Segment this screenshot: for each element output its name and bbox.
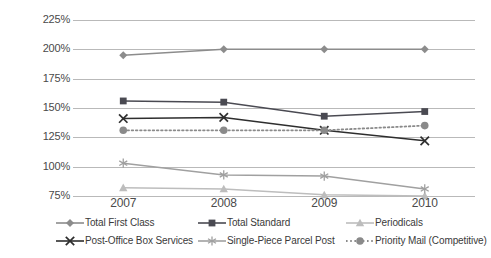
line-chart: 225%200%175%150%125%100%75% 200720082009… (0, 0, 491, 258)
legend-label: Post-Office Box Services (85, 235, 193, 246)
legend-label: Total First Class (85, 217, 154, 228)
x-tick-label: 2007 (93, 196, 153, 210)
x-icon (55, 234, 85, 248)
triangle-icon (345, 216, 375, 230)
legend-label: Single-Piece Parcel Post (227, 235, 335, 246)
legend-label: Periodicals (375, 217, 423, 228)
legend-item-x[interactable]: Post-Office Box Services (55, 231, 197, 250)
data-point-circle (356, 237, 364, 245)
diamond-icon (55, 216, 85, 230)
x-tick-label: 2009 (294, 196, 354, 210)
legend-item-asterisk[interactable]: Single-Piece Parcel Post (197, 231, 345, 250)
legend-item-circle[interactable]: Priority Mail (Competitive) (345, 231, 491, 250)
x-tick-label: 2010 (395, 196, 455, 210)
asterisk-icon (197, 234, 227, 248)
legend-row: Total First ClassTotal StandardPeriodica… (55, 213, 491, 232)
legend-label: Total Standard (227, 217, 290, 228)
x-axis-labels: 2007200820092010 (73, 0, 475, 215)
data-point-square (209, 219, 216, 226)
legend-item-diamond[interactable]: Total First Class (55, 213, 197, 232)
x-tick-label: 2008 (194, 196, 254, 210)
legend-label: Priority Mail (Competitive) (375, 235, 487, 246)
data-point-diamond (66, 219, 74, 227)
legend-row: Post-Office Box ServicesSingle-Piece Par… (55, 231, 491, 250)
circle-icon (345, 234, 375, 248)
chart-legend: Total First ClassTotal StandardPeriodica… (55, 210, 491, 256)
legend-item-square[interactable]: Total Standard (197, 213, 345, 232)
legend-item-triangle[interactable]: Periodicals (345, 213, 491, 232)
square-icon (197, 216, 227, 230)
